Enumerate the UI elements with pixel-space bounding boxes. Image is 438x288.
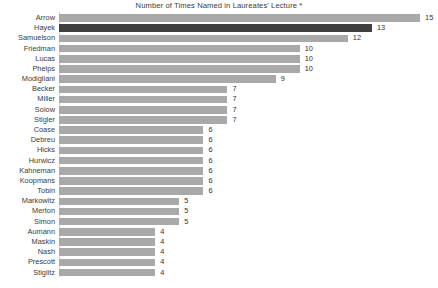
bar-track	[59, 218, 179, 226]
category-label: Prescott	[0, 257, 55, 267]
bar-row: Modigliani9	[0, 74, 438, 84]
bar	[59, 228, 155, 236]
category-label: Nash	[0, 247, 55, 257]
bar-track	[59, 208, 179, 216]
bar-row: Friedman10	[0, 44, 438, 54]
category-label: Aumann	[0, 227, 55, 237]
bar	[59, 24, 372, 32]
bar-row: Prescott4	[0, 257, 438, 267]
category-label: Friedman	[0, 44, 55, 54]
bar	[59, 86, 227, 94]
bar	[59, 35, 348, 43]
bar	[59, 45, 300, 53]
bar	[59, 177, 203, 185]
bar-row: Miller7	[0, 94, 438, 104]
category-label: Hicks	[0, 145, 55, 155]
category-label: Modigliani	[0, 74, 55, 84]
bar-track	[59, 116, 227, 124]
category-label: Solow	[0, 105, 55, 115]
category-label: Hurwicz	[0, 156, 55, 166]
bar-track	[59, 75, 276, 83]
bar-value-label: 10	[305, 54, 313, 64]
bar-track	[59, 238, 155, 246]
category-label: Markowitz	[0, 196, 55, 206]
bar	[59, 14, 420, 22]
bar-row: Aumann4	[0, 227, 438, 237]
category-label: Samuelson	[0, 33, 55, 43]
bar-value-label: 6	[208, 125, 212, 135]
bar-value-label: 10	[305, 64, 313, 74]
bar-row: Samuelson12	[0, 33, 438, 43]
bar-row: Phelps10	[0, 64, 438, 74]
bar	[59, 167, 203, 175]
category-label: Stiglitz	[0, 268, 55, 278]
bar-row: Stigler7	[0, 115, 438, 125]
bar-value-label: 4	[160, 237, 164, 247]
bar-track	[59, 248, 155, 256]
bar-value-label: 6	[208, 156, 212, 166]
bar-value-label: 5	[184, 206, 188, 216]
bar	[59, 259, 155, 267]
bar	[59, 75, 276, 83]
bar	[59, 106, 227, 114]
category-label: Lucas	[0, 54, 55, 64]
bar	[59, 238, 155, 246]
category-label: Phelps	[0, 64, 55, 74]
bar-track	[59, 65, 300, 73]
bar-track	[59, 55, 300, 63]
bar-value-label: 7	[232, 84, 236, 94]
bar-row: Hayek13	[0, 23, 438, 33]
bar-row: Hurwicz6	[0, 156, 438, 166]
bar-track	[59, 86, 227, 94]
bar-value-label: 4	[160, 227, 164, 237]
bar-track	[59, 177, 203, 185]
bar-row: Markowitz5	[0, 196, 438, 206]
bar-value-label: 7	[232, 94, 236, 104]
bar-track	[59, 96, 227, 104]
bar-row: Kahneman6	[0, 166, 438, 176]
category-label: Coase	[0, 125, 55, 135]
chart-title: Number of Times Named in Laureates' Lect…	[0, 1, 438, 11]
category-label: Miller	[0, 94, 55, 104]
bar-value-label: 6	[208, 145, 212, 155]
category-label: Debreu	[0, 135, 55, 145]
bar	[59, 147, 203, 155]
bar	[59, 187, 203, 195]
bar-row: Becker7	[0, 84, 438, 94]
bar-value-label: 12	[353, 33, 361, 43]
bar	[59, 116, 227, 124]
bar-track	[59, 228, 155, 236]
category-label: Hayek	[0, 23, 55, 33]
bar-row: Tobin6	[0, 186, 438, 196]
bar-value-label: 7	[232, 105, 236, 115]
bar-value-label: 4	[160, 257, 164, 267]
bar	[59, 248, 155, 256]
bar	[59, 269, 155, 277]
bar-value-label: 7	[232, 115, 236, 125]
bar	[59, 65, 300, 73]
bar-value-label: 5	[184, 196, 188, 206]
bar-row: Hicks6	[0, 145, 438, 155]
category-label: Simon	[0, 217, 55, 227]
bar-track	[59, 147, 203, 155]
bar-value-label: 9	[281, 74, 285, 84]
bar	[59, 136, 203, 144]
bar-track	[59, 167, 203, 175]
bar-track	[59, 157, 203, 165]
bar	[59, 198, 179, 206]
bar-row: Arrow15	[0, 13, 438, 23]
bar-row: Simon5	[0, 217, 438, 227]
bar-track	[59, 35, 348, 43]
bar-track	[59, 24, 372, 32]
bar	[59, 157, 203, 165]
category-label: Arrow	[0, 13, 55, 23]
bar-value-label: 10	[305, 44, 313, 54]
category-label: Stigler	[0, 115, 55, 125]
bar-row: Koopmans6	[0, 176, 438, 186]
bar-value-label: 6	[208, 135, 212, 145]
bar	[59, 96, 227, 104]
bar-track	[59, 187, 203, 195]
bar-value-label: 5	[184, 217, 188, 227]
category-label: Maskin	[0, 237, 55, 247]
bar-value-label: 4	[160, 247, 164, 257]
